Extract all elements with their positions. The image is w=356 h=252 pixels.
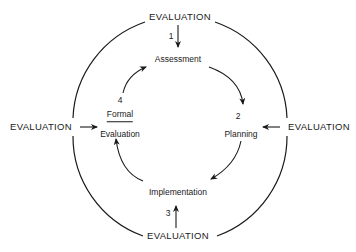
step-number-3: 3 bbox=[166, 209, 171, 218]
arrow-planning-to-implementation bbox=[211, 141, 241, 179]
evaluation-label-right: EVALUATION bbox=[286, 122, 352, 132]
evaluation-label-top: EVALUATION bbox=[147, 12, 213, 22]
arrow-assessment-to-planning bbox=[209, 67, 243, 104]
node-planning: Planning bbox=[224, 130, 257, 139]
evaluation-label-bottom: EVALUATION bbox=[145, 231, 211, 241]
node-formal-evaluation-bottom: Evaluation bbox=[100, 130, 140, 139]
evaluation-label-left: EVALUATION bbox=[8, 122, 74, 132]
inner-cycle-arrows bbox=[116, 67, 243, 181]
step-number-1: 1 bbox=[169, 32, 174, 41]
step-number-4: 4 bbox=[118, 96, 123, 105]
step-number-2: 2 bbox=[236, 112, 241, 121]
node-assessment: Assessment bbox=[155, 55, 201, 64]
node-formal-evaluation-top: Formal bbox=[107, 110, 133, 122]
arrow-formal-evaluation-to-assessment bbox=[123, 67, 146, 93]
arrow-implementation-to-formal-evaluation bbox=[116, 139, 143, 181]
node-implementation: Implementation bbox=[149, 188, 207, 197]
